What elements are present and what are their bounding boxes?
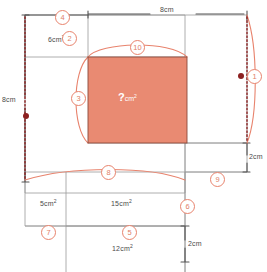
diagram-canvas: 8cm 8cm 2cm 2cm 6cm2 5cm2 15cm2 12cm2 ?c… [0, 0, 267, 272]
label-left-8cm: 8cm [2, 96, 16, 103]
label-right-2cm: 2cm [249, 153, 263, 160]
marker-4[interactable]: 4 [55, 10, 70, 25]
unknown-area-rect [88, 57, 187, 143]
marker-10[interactable]: 10 [130, 40, 145, 55]
label-bottom-2cm: 2cm [188, 240, 202, 247]
marker-8[interactable]: 8 [101, 165, 116, 180]
marker-1[interactable]: 1 [247, 69, 262, 84]
label-area-5cm2: 5cm2 [40, 198, 57, 207]
marker-3[interactable]: 3 [71, 91, 86, 106]
marker-7[interactable]: 7 [41, 225, 56, 240]
label-area-15cm2: 15cm2 [111, 198, 132, 207]
marker-9[interactable]: 9 [210, 172, 225, 187]
label-unknown-area: ?cm2 [118, 91, 137, 103]
marker-6[interactable]: 6 [180, 199, 195, 214]
endpoint-dot-left [23, 113, 29, 119]
endpoint-dot-right [238, 73, 244, 79]
marker-5[interactable]: 5 [122, 225, 137, 240]
label-top-8cm: 8cm [160, 6, 174, 13]
marker-2[interactable]: 2 [62, 31, 77, 46]
right-strip-rect [185, 143, 247, 172]
label-area-12cm2: 12cm2 [112, 243, 133, 252]
